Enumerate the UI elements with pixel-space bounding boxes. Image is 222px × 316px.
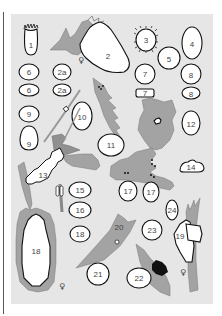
label-22: 22	[135, 274, 144, 283]
egg-18-small: 18	[70, 226, 90, 242]
label-15: 15	[76, 186, 85, 195]
label-9-bottom: 9	[27, 140, 32, 149]
label-10: 10	[78, 113, 87, 122]
egg-6-bottom: 6	[19, 84, 39, 96]
label-14: 14	[187, 163, 196, 172]
egg-14: 14	[180, 160, 204, 172]
egg-2a-top: 2a	[53, 64, 71, 80]
egg-5: 5	[158, 47, 180, 69]
egg-7-bottom: 7	[136, 89, 154, 98]
label-18-small: 18	[76, 230, 85, 239]
leaf-17-host	[110, 148, 174, 190]
label-21: 21	[94, 270, 103, 279]
twig-eggs	[56, 184, 63, 212]
label-6-top: 6	[27, 68, 32, 77]
egg-17-right: 17	[143, 182, 159, 202]
label-17-right: 17	[147, 188, 156, 197]
leaf-spiny	[93, 78, 121, 140]
leaf-12-host	[138, 98, 176, 150]
egg-12: 12	[182, 111, 200, 135]
label-5: 5	[167, 55, 172, 64]
egg-15: 15	[69, 182, 91, 198]
label-9-top: 9	[27, 110, 32, 119]
egg-3: 3	[134, 26, 158, 53]
egg-4: 4	[182, 27, 202, 59]
label-23: 23	[148, 226, 157, 235]
egg-8-bottom: 8	[182, 87, 200, 99]
label-8-top: 8	[189, 71, 194, 80]
label-24: 24	[168, 206, 177, 215]
egg-10: 10	[72, 102, 92, 130]
label-2a-top: 2a	[58, 68, 67, 77]
egg-7-top: 7	[135, 64, 155, 84]
label-2a-bottom: 2a	[58, 86, 67, 95]
egg-24: 24	[166, 200, 178, 220]
label-18-large: 18	[32, 247, 41, 256]
egg-22: 22	[127, 268, 151, 288]
egg-17-left: 17	[119, 181, 137, 201]
egg-mass-13: 13	[26, 148, 64, 184]
label-17-left: 17	[124, 187, 133, 196]
egg-11: 11	[98, 134, 124, 156]
label-4: 4	[190, 40, 195, 49]
label-7-top: 7	[143, 70, 148, 79]
egg-16: 16	[69, 202, 91, 218]
label-13: 13	[39, 171, 48, 180]
label-16: 16	[76, 206, 85, 215]
egg-2a-bottom: 2a	[53, 84, 71, 96]
label-12: 12	[187, 120, 196, 129]
label-6-bottom: 6	[27, 86, 32, 95]
egg-9-top: 9	[19, 106, 39, 122]
egg-1: 1	[24, 24, 38, 55]
egg-mass-18: 18	[16, 208, 56, 292]
egg-23: 23	[142, 220, 162, 240]
label-19: 19	[176, 232, 185, 241]
egg-9-bottom: 9	[20, 126, 38, 150]
female-symbol-18: ♀	[59, 282, 65, 291]
label-3: 3	[144, 36, 149, 45]
label-1: 1	[29, 41, 34, 50]
female-symbol-19: ♀	[180, 268, 186, 277]
label-20: 20	[115, 223, 124, 232]
label-8-bottom: 8	[189, 90, 194, 99]
egg-6-top: 6	[19, 64, 39, 80]
label-7-bottom: 7	[143, 89, 148, 98]
egg-mass-19: 19	[174, 220, 202, 262]
female-symbol-2: ♀	[78, 56, 84, 65]
egg-8-top: 8	[181, 64, 201, 84]
label-11: 11	[107, 141, 116, 150]
label-2: 2	[106, 52, 111, 61]
egg-21: 21	[87, 263, 109, 285]
egg-identification-plate: 1 2 ♀ 3 4 5 6 2a 7 8	[0, 0, 222, 316]
